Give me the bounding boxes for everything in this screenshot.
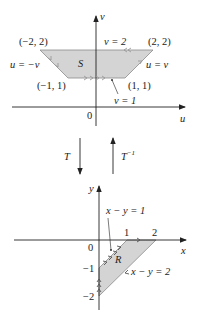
origin-label-xy: 0 bbox=[88, 242, 93, 253]
t-inverse-label: T−1 bbox=[121, 149, 135, 162]
region-s bbox=[40, 50, 153, 78]
leader-line-v1 bbox=[112, 80, 118, 94]
region-s-label: S bbox=[78, 58, 84, 69]
y-axis-label: y bbox=[88, 183, 94, 194]
leader-dot-xy1 bbox=[110, 249, 112, 251]
vertex-label-neg2-2: (−2, 2) bbox=[19, 36, 48, 48]
uv-plane: v u 0 S (−2, 2) (2, 2) (1, 1) (−1, 1) v … bbox=[10, 11, 185, 126]
vertex-label-2-2: (2, 2) bbox=[148, 36, 171, 48]
boundary-label-upper: x − y = 1 bbox=[105, 205, 145, 216]
boundary-label-bottom: v = 1 bbox=[114, 95, 136, 106]
boundary-label-lower: x − y = 2 bbox=[130, 266, 171, 277]
t-forward-label: T bbox=[64, 151, 71, 162]
boundary-label-left: u = −v bbox=[10, 59, 40, 70]
y-tick-neg2: −2 bbox=[83, 291, 94, 302]
u-axis-label: u bbox=[180, 113, 185, 124]
leader-line-xy1 bbox=[108, 218, 111, 250]
y-tick-neg1: −1 bbox=[83, 263, 94, 274]
region-r-label: R bbox=[114, 254, 122, 265]
transform-arrows: T T−1 bbox=[64, 138, 135, 174]
origin-label-uv: 0 bbox=[87, 110, 92, 121]
vertex-label-neg1-1: (−1, 1) bbox=[37, 80, 66, 92]
x-tick-1: 1 bbox=[124, 227, 129, 238]
vertex-label-1-1: (1, 1) bbox=[128, 80, 151, 92]
x-axis-label: x bbox=[180, 245, 186, 256]
boundary-label-top: v = 2 bbox=[104, 36, 127, 47]
boundary-label-right: u = v bbox=[146, 59, 169, 70]
x-tick-2: 2 bbox=[152, 227, 157, 238]
change-of-variables-diagram: v u 0 S (−2, 2) (2, 2) (1, 1) (−1, 1) v … bbox=[0, 0, 202, 322]
v-axis-label: v bbox=[100, 11, 105, 22]
xy-plane: y x 0 1 2 −1 −2 R x − y = 1 x − y = 2 bbox=[14, 183, 186, 310]
leader-dot-v1 bbox=[111, 79, 113, 81]
